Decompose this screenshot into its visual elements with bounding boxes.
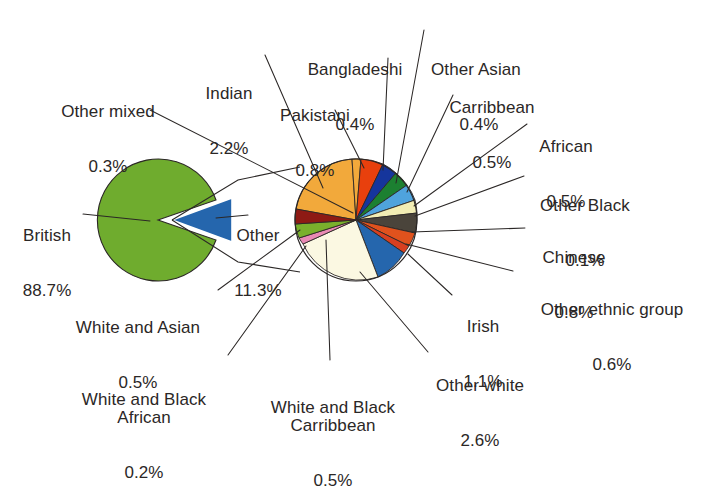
label-indian-pct: 2.2% xyxy=(196,140,262,158)
label-african-name: African xyxy=(527,138,605,156)
label-other-white-name: Other white xyxy=(424,377,536,395)
label-other-name: Other xyxy=(222,227,294,245)
label-other-white-pct: 2.6% xyxy=(424,432,536,450)
leader-irish xyxy=(408,254,452,295)
label-indian-name: Indian xyxy=(196,85,262,103)
label-other-ethnic-group-name: Other ethnic group xyxy=(519,301,705,319)
label-white-and-black-carribbean: White and Black Carribbean 0.5% xyxy=(250,362,416,490)
label-white-and-black-carribbean-pct: 0.5% xyxy=(250,472,416,490)
leader-chinese xyxy=(412,228,525,232)
label-british-name: British xyxy=(6,227,88,245)
label-bangladeshi: Bangladeshi 0.4% xyxy=(300,24,410,171)
label-white-and-asian: White and Asian 0.5% xyxy=(62,282,214,429)
label-other-mixed-pct: 0.3% xyxy=(58,158,158,176)
label-white-and-black-carribbean-name: White and Black Carribbean xyxy=(250,399,416,436)
label-other-ethnic-group-pct: 0.6% xyxy=(519,356,705,374)
label-bangladeshi-name: Bangladeshi xyxy=(300,61,410,79)
label-other-mixed: Other mixed 0.3% xyxy=(58,66,158,213)
label-white-and-black-african-pct: 0.2% xyxy=(68,464,220,482)
page-corner-artifact xyxy=(697,449,711,457)
label-other-white: Other white 2.6% xyxy=(424,340,536,487)
label-other-pct: 11.3% xyxy=(222,282,294,300)
label-white-and-asian-pct: 0.5% xyxy=(62,374,214,392)
label-irish-name: Irish xyxy=(455,318,511,336)
label-white-and-asian-name: White and Asian xyxy=(62,319,214,337)
label-bangladeshi-pct: 0.4% xyxy=(300,116,410,134)
label-other-ethnic-group: Other ethnic group 0.6% xyxy=(519,264,705,411)
leader-other-white xyxy=(360,272,428,352)
label-other-mixed-name: Other mixed xyxy=(58,103,158,121)
label-indian: Indian 2.2% xyxy=(196,48,262,195)
